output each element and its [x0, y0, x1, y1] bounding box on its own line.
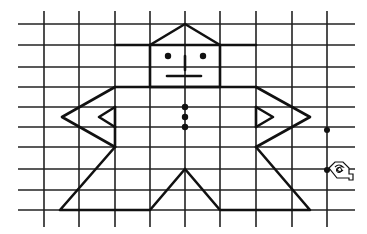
button-3 [182, 124, 188, 130]
left-arm-inner [99, 107, 115, 127]
button-2 [182, 114, 188, 120]
button-1 [182, 104, 188, 110]
right-eye [200, 53, 206, 59]
right-arm-inner [256, 107, 273, 127]
left-arm-outer [62, 87, 115, 147]
left-eye [165, 53, 171, 59]
marker-point [324, 127, 330, 133]
hand-pointer-icon [329, 162, 353, 180]
right-arm-outer [256, 87, 310, 147]
drawing-canvas[interactable] [0, 0, 367, 234]
